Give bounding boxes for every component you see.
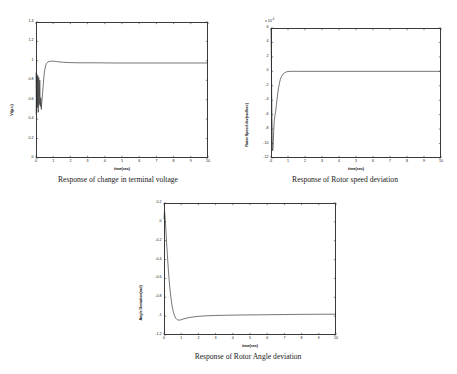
x-tick-label: 5 [355, 160, 357, 164]
x-tick-label: 2 [304, 160, 306, 164]
plot-area-rotor-angle-deviation [114, 188, 354, 374]
x-tick-label: 3 [215, 337, 217, 341]
y-tick-label: 0 [229, 70, 269, 74]
y-tick-label: 6 [229, 26, 269, 30]
y-axis-exponent: x 10-4 [265, 18, 274, 23]
x-tick-label: 2 [69, 160, 71, 164]
x-tick-label: 9 [190, 160, 192, 164]
plot-canvas-rotor-angle-deviation [114, 188, 354, 374]
x-tick-label: 10 [206, 160, 210, 164]
data-series-line [164, 211, 336, 321]
x-tick-label: 7 [389, 160, 391, 164]
y-tick-label: 0.8 [0, 78, 34, 82]
y-tick-label: 0.2 [0, 137, 34, 141]
x-tick-label: 8 [301, 337, 303, 341]
y-tick-label: 0 [114, 220, 162, 224]
x-tick-label: 6 [266, 337, 268, 341]
figure-terminal-voltage: Vt(p.u) time(sec) Response of change in … [0, 0, 228, 186]
y-tick-label: 4 [229, 41, 269, 45]
figure-caption: Response of Rotor Angle deviation [195, 352, 302, 361]
y-tick-label: -2 [229, 84, 269, 88]
x-tick-label: 8 [173, 160, 175, 164]
y-axis-exponent-base: x 10 [265, 19, 272, 23]
y-tick-label: 2 [229, 55, 269, 59]
x-tick-label: 5 [121, 160, 123, 164]
x-tick-label: 6 [138, 160, 140, 164]
x-tick-label: 1 [180, 337, 182, 341]
y-tick-label: -12 [229, 156, 269, 160]
y-tick-label: -0.6 [114, 277, 162, 281]
figure-caption: Response of Rotor speed deviation [292, 175, 398, 184]
x-tick-label: 4 [104, 160, 106, 164]
x-tick-label: 1 [287, 160, 289, 164]
y-tick-label: -0.2 [114, 239, 162, 243]
x-tick-label: 8 [406, 160, 408, 164]
x-tick-label: 10 [334, 337, 338, 341]
x-axis-title: time(sec) [114, 167, 130, 171]
x-tick-label: 0 [270, 160, 272, 164]
figure-rotor-speed-deviation: x 10-4 Rotor Speed dev(rad/sec) time(sec… [229, 0, 457, 186]
y-tick-label: -8 [229, 127, 269, 131]
x-axis-title: time(sec) [242, 344, 258, 348]
x-tick-label: 5 [249, 337, 251, 341]
figure-caption: Response of change in terminal voltage [58, 175, 178, 184]
figure-rotor-angle-deviation: Angle Deviation(rad) time(sec) Response … [114, 188, 354, 374]
x-tick-label: 0 [35, 160, 37, 164]
x-tick-label: 0 [163, 337, 165, 341]
x-tick-label: 4 [338, 160, 340, 164]
data-series-line [271, 28, 441, 151]
x-tick-label: 7 [155, 160, 157, 164]
x-tick-label: 10 [439, 160, 443, 164]
data-series-line [36, 61, 208, 114]
x-tick-label: 7 [283, 337, 285, 341]
y-axis-title: Vt(p.u) [10, 104, 14, 115]
y-tick-label: -0.8 [114, 295, 162, 299]
y-axis-title: Rotor Speed dev(rad/sec) [245, 103, 249, 147]
y-tick-label: -10 [229, 142, 269, 146]
x-tick-label: 3 [321, 160, 323, 164]
y-tick-label: -6 [229, 113, 269, 117]
x-axis-title: time(sec) [348, 167, 364, 171]
x-tick-label: 1 [52, 160, 54, 164]
x-tick-label: 2 [197, 337, 199, 341]
y-tick-label: 0.4 [0, 117, 34, 121]
y-tick-label: -1 [114, 314, 162, 318]
x-tick-label: 6 [372, 160, 374, 164]
y-tick-label: 0.6 [0, 98, 34, 102]
y-tick-label: 0 [0, 156, 34, 160]
y-tick-label: -4 [229, 98, 269, 102]
y-axis-exponent-power: -4 [272, 18, 274, 21]
y-tick-label: 1.2 [0, 40, 34, 44]
y-tick-label: -0.4 [114, 258, 162, 262]
x-tick-label: 4 [232, 337, 234, 341]
x-tick-label: 9 [423, 160, 425, 164]
x-tick-label: 9 [318, 337, 320, 341]
figure-page: { "page": { "title": "Simulation respons… [0, 0, 457, 374]
x-tick-label: 3 [87, 160, 89, 164]
y-tick-label: 1.4 [0, 20, 34, 24]
y-tick-label: -1.2 [114, 333, 162, 337]
y-tick-label: 1 [0, 59, 34, 63]
y-tick-label: 0.2 [114, 201, 162, 205]
